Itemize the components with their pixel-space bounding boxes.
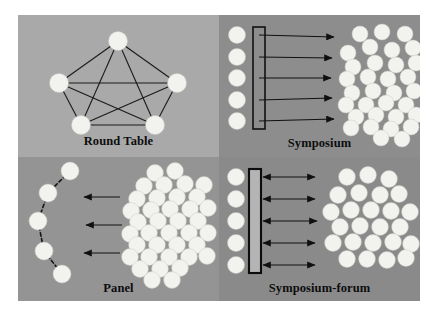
- symposium-speaker: [229, 27, 246, 44]
- symposium-forum-audience-member: [359, 251, 376, 268]
- symposium-forum-audience-member: [381, 171, 398, 188]
- label-panel: Panel: [18, 281, 219, 296]
- round-table-seat: [50, 74, 69, 93]
- symposium-audience-member: [365, 83, 381, 99]
- symposium-forum-audience-member: [323, 204, 340, 221]
- symposium-forum-audience-member: [379, 252, 396, 269]
- symposium-audience-member: [397, 26, 413, 42]
- symposium-audience-member: [367, 55, 383, 71]
- round-table-seat: [168, 74, 187, 93]
- symposium-audience-member: [374, 24, 390, 40]
- symposium-audience-member: [340, 45, 356, 61]
- symposium-forum-audience-member: [363, 202, 380, 219]
- symposium-forum-audience-member: [402, 204, 419, 221]
- symposium-arrow: [259, 98, 332, 100]
- symposium-arrow: [259, 35, 334, 37]
- quadrant-round-table: Round Table: [18, 15, 219, 157]
- symposium-speaker: [229, 92, 246, 109]
- panel-arrows: [84, 197, 122, 253]
- symposium-forum-audience-member: [360, 167, 377, 184]
- quadrant-symposium-forum: Symposium-forum: [219, 157, 420, 301]
- round-table-edge: [59, 83, 155, 125]
- symposium-forum-speakers: [228, 169, 245, 274]
- symposium-forum-audience-member: [385, 234, 402, 251]
- symposium-forum-audience-member: [351, 185, 368, 202]
- round-table-seat: [72, 116, 91, 135]
- symposium-forum-audience-member: [330, 187, 347, 204]
- panel-speaker: [29, 212, 47, 230]
- panel-audience-member: [199, 248, 216, 265]
- symposium-audience-member: [400, 69, 416, 85]
- symposium-forum-audience-member: [391, 186, 408, 203]
- symposium-audience: [338, 24, 420, 147]
- symposium-speakers: [229, 27, 246, 130]
- panel-diagram: [18, 157, 219, 301]
- symposium-audience-member: [384, 42, 400, 58]
- symposium-audience-member: [405, 40, 420, 56]
- symposium-forum-audience-member: [352, 218, 369, 235]
- symposium-audience-member: [408, 55, 420, 71]
- symposium-forum-speaker: [228, 191, 245, 208]
- symposium-speaker: [229, 113, 246, 130]
- symposium-speaker: [229, 49, 246, 66]
- symposium-forum-audience-member: [372, 219, 389, 236]
- round-table-seat: [109, 32, 128, 51]
- panel-speaker: [39, 184, 57, 202]
- round-table-edge: [81, 83, 177, 125]
- symposium-forum-arrows: [263, 177, 317, 265]
- symposium-audience-member: [406, 83, 420, 99]
- panel-speaker: [61, 162, 79, 180]
- symposium-forum-table: [249, 169, 261, 273]
- symposium-forum-audience-member: [345, 234, 362, 251]
- figure-root: Round Table Symposium Pa: [18, 15, 420, 301]
- panel-speakers: [29, 162, 79, 283]
- symposium-forum-speaker: [228, 257, 245, 274]
- symposium-audience-member: [352, 26, 368, 42]
- symposium-forum-audience-member: [339, 169, 356, 186]
- symposium-forum-audience: [323, 167, 420, 269]
- symposium-arrow: [259, 119, 334, 121]
- symposium-audience-member: [339, 71, 355, 87]
- quadrant-panel: Panel: [18, 157, 219, 301]
- symposium-forum-speaker: [228, 235, 245, 252]
- label-round-table: Round Table: [18, 134, 219, 149]
- symposium-arrows: [259, 35, 334, 121]
- label-symposium: Symposium: [219, 136, 420, 151]
- symposium-speaker: [229, 70, 246, 87]
- symposium-forum-table-rect: [249, 169, 261, 273]
- symposium-forum-audience-member: [332, 219, 349, 236]
- symposium-audience-member: [380, 71, 396, 87]
- symposium-forum-audience-member: [372, 187, 389, 204]
- symposium-arrow: [259, 57, 332, 58]
- round-table-seat: [146, 116, 165, 135]
- symposium-forum-audience-member: [339, 251, 356, 268]
- round-table-edges: [59, 41, 177, 125]
- symposium-forum-audience-member: [398, 250, 415, 267]
- symposium-forum-audience-member: [392, 219, 409, 236]
- quadrant-symposium: Symposium: [219, 15, 420, 157]
- symposium-forum-audience-member: [325, 235, 342, 252]
- symposium-audience-member: [360, 69, 376, 85]
- symposium-forum-audience-member: [365, 235, 382, 252]
- symposium-forum-audience-member: [343, 202, 360, 219]
- panel-audience: [122, 163, 217, 289]
- label-symposium-forum: Symposium-forum: [219, 281, 420, 296]
- symposium-audience-member: [343, 120, 359, 136]
- symposium-audience-member: [362, 39, 378, 55]
- symposium-forum-speaker: [228, 169, 245, 186]
- symposium-audience-member: [388, 57, 404, 73]
- symposium-forum-diagram: [219, 157, 420, 301]
- symposium-forum-audience-member: [383, 203, 400, 220]
- panel-speaker: [35, 242, 53, 260]
- symposium-forum-speaker: [228, 213, 245, 230]
